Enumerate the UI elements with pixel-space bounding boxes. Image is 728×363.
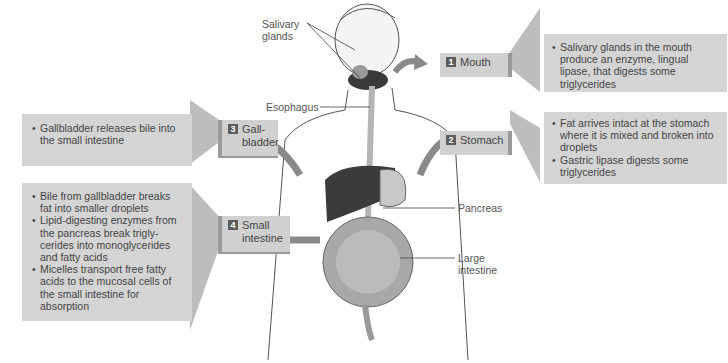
step-gallbladder: 3 Gall- bladder [218,120,278,158]
info-box-stomach: Fat arrives intact at the stomach where … [544,112,727,184]
label-esophagus: Esophagus [266,101,319,113]
step-mouth: 1 Mouth [440,53,512,77]
step-label: Small intestine [242,219,284,245]
bullet: Bile from gallbladder breaks fat into sm… [32,190,182,214]
step-label: Gall- bladder [242,123,278,149]
bullet: Lipid-digesting enzymes from the pancrea… [32,214,182,263]
bullet: Gastric lipase digests some triglyceride… [552,154,719,178]
info-box-mouth: Salivary glands in the mouth produce an … [544,34,727,92]
bullet: Salivary glands in the mouth produce an … [552,41,719,90]
bullet: Gallbladder releases bile into the small… [32,122,182,146]
connector-small-intestine [190,185,222,330]
bullet: Micelles transport free fatty acids to t… [32,263,182,312]
bullet: Fat arrives intact at the stomach where … [552,117,719,154]
step-number-badge: 3 [228,124,238,134]
step-number-badge: 4 [228,220,238,230]
step-number-badge: 1 [446,57,456,67]
step-label: Mouth [460,56,491,69]
connector-mouth [510,8,540,92]
info-box-gallbladder: Gallbladder releases bile into the small… [22,114,192,166]
step-label: Stomach [460,134,503,147]
info-box-small-intestine: Bile from gallbladder breaks fat into sm… [22,183,192,321]
label-pancreas: Pancreas [458,202,502,214]
step-stomach: 2 Stomach [440,131,512,155]
label-large-intestine: Large intestine [458,252,508,276]
step-number-badge: 2 [446,135,456,145]
connector-stomach [510,110,540,182]
step-small-intestine: 4 Small intestine [218,216,290,254]
label-salivary-glands: Salivary glands [262,18,312,42]
